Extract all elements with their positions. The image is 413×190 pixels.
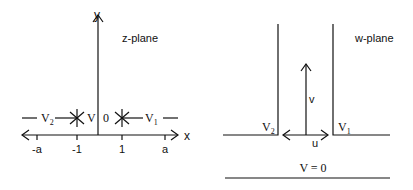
electrode-v2 — [223, 24, 278, 135]
z-potential-v1: V1 — [145, 111, 158, 127]
z-plane-title: z-plane — [122, 32, 158, 44]
z-potential-center-zero: 0 — [103, 111, 109, 125]
conformal-map-diagram: y x z-plane -a -1 1 a V2 V 0 V1 w-plane … — [0, 0, 413, 190]
z-potential-center-label: V — [87, 111, 96, 125]
v-axis-label: v — [309, 93, 315, 105]
tick-label-neg-1: -1 — [72, 143, 82, 155]
tick-label-neg-a: -a — [32, 143, 43, 155]
tick-label-1: 1 — [119, 143, 125, 155]
x-axis-label: x — [184, 129, 190, 143]
z-potential-v2: V2 — [41, 111, 54, 127]
w-plane-title: w-plane — [354, 32, 394, 44]
w-potential-v1: V1 — [338, 120, 351, 136]
w-potential-v2: V2 — [262, 120, 275, 136]
w-potential-ground: V = 0 — [299, 161, 326, 175]
u-axis-label: u — [312, 137, 318, 149]
tick-label-a: a — [162, 143, 169, 155]
w-plane-panel — [223, 24, 390, 178]
y-axis-label: y — [94, 8, 100, 22]
